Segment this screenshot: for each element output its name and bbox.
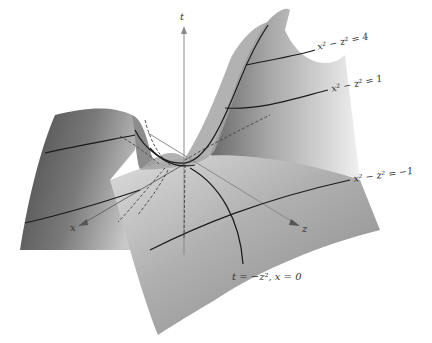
- label-parabola: t = −z², x = 0: [232, 271, 302, 282]
- label-x-axis: x: [70, 222, 76, 233]
- label-level-4: x² − z² = 4: [316, 30, 369, 52]
- label-t-axis: t: [180, 11, 185, 22]
- label-level-neg1: x² − z² = −1: [353, 165, 414, 184]
- t-axis-arrow: [181, 26, 187, 34]
- saddle-surface-figure: t x z x² − z² = 4 x² − z² = 1 x² − z² = …: [0, 0, 432, 343]
- label-z-axis: z: [301, 223, 308, 234]
